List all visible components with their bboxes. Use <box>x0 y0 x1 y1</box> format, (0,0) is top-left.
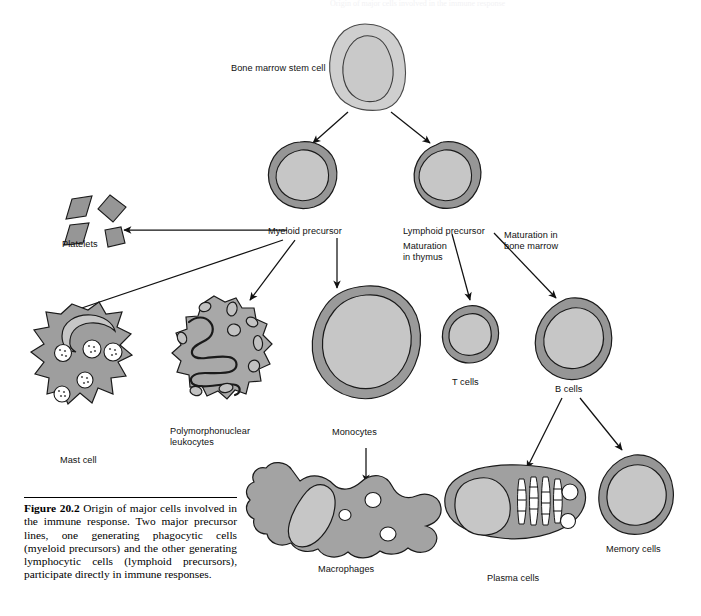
label-lymphoid-precursor: Lymphoid precursor <box>403 226 485 238</box>
label-monocytes: Monocytes <box>332 427 377 439</box>
platelet-shape <box>105 227 125 247</box>
arrow-bcell-to-memory <box>580 398 622 450</box>
label-myeloid-precursor: Myeloid precursor <box>268 226 342 238</box>
label-bone-marrow-stem-cell: Bone marrow stem cell <box>231 63 326 75</box>
label-t-cells: T cells <box>452 377 479 389</box>
arrow-stem-to-myeloid <box>313 112 348 143</box>
figure-20-2: Origin of major cells involved in the im… <box>0 0 701 616</box>
cell-bone-marrow-stem-cell <box>330 24 406 110</box>
t-cell-nucleus <box>449 314 491 356</box>
cell-b-cells <box>535 298 611 380</box>
label-memory-cells: Memory cells <box>606 544 661 556</box>
label-macrophages: Macrophages <box>318 564 374 576</box>
label-mast-cell: Mast cell <box>60 455 97 467</box>
figure-caption: Figure 20.2 Origin of major cells involv… <box>24 497 237 582</box>
platelet-shape <box>98 195 126 222</box>
caption-text: Figure 20.2 Origin of major cells involv… <box>24 502 237 582</box>
label-pmn-line1: Polymorphonuclear <box>170 426 250 438</box>
label-maturation-in-thymus-line1: Maturation <box>403 241 447 253</box>
memory-cell-nucleus <box>607 465 666 525</box>
platelet-shape <box>66 196 92 219</box>
arrow-lymphoid-to-tcell <box>452 234 470 300</box>
label-maturation-in-thymus-line2: in thymus <box>403 252 443 264</box>
arrow-bcell-to-plasma <box>527 398 562 468</box>
label-maturation-in-bone-marrow-line2: bone marrow <box>504 241 558 253</box>
caption-figure-number: Figure 20.2 <box>24 502 80 514</box>
caption-rule <box>24 497 237 498</box>
cell-memory-cell <box>599 455 674 535</box>
cell-plasma-cell <box>445 465 586 539</box>
plasma-cell-nucleus <box>455 478 510 535</box>
cell-lymphoid-precursor <box>414 142 481 209</box>
monocyte-nucleus <box>322 295 411 389</box>
label-maturation-in-bone-marrow-line1: Maturation in <box>504 230 558 242</box>
arrow-stem-to-lymphoid <box>391 112 430 143</box>
label-pmn-line2: leukocytes <box>170 437 214 449</box>
label-plasma-cells: Plasma cells <box>487 573 539 585</box>
cell-myeloid-precursor <box>268 142 336 209</box>
cell-macrophage <box>247 463 442 558</box>
cell-monocyte <box>312 286 420 399</box>
cell-t-cells <box>442 306 498 363</box>
stem-cell-nucleus <box>343 36 393 102</box>
label-platelets: Platelets <box>62 239 98 251</box>
cell-polymorphonuclear-leukocyte <box>172 296 272 399</box>
cell-mast-cell <box>31 302 132 404</box>
label-b-cells: B cells <box>555 384 582 396</box>
